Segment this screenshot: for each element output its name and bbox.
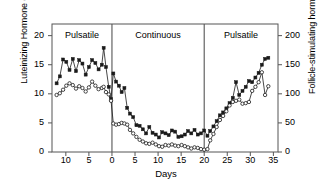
figure: Luteinizing Hormone (ng/mL) Follicle-sti…	[0, 0, 332, 188]
data-series-layer	[55, 46, 270, 151]
plot-area	[0, 0, 332, 188]
axis-tick-marks	[48, 36, 282, 156]
